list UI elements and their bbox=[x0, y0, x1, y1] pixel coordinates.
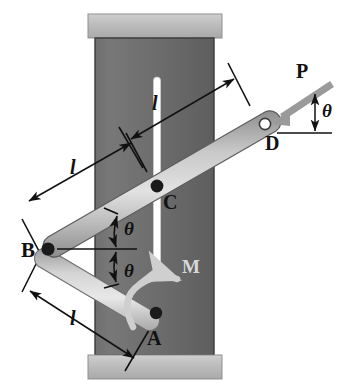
dim-low-ext-b bbox=[22, 262, 37, 292]
moment-label: M bbox=[182, 256, 200, 277]
mechanism-diagram: l l l bbox=[0, 0, 348, 386]
label-b: B bbox=[21, 238, 35, 262]
column-top-cap bbox=[88, 14, 222, 38]
label-a: A bbox=[147, 327, 162, 349]
label-c: C bbox=[163, 191, 177, 213]
dim-up-ext-d bbox=[228, 63, 250, 106]
mechanism-figure: l l l bbox=[0, 0, 348, 386]
dimension-middle-label: l bbox=[70, 156, 76, 178]
column-bottom-cap bbox=[88, 355, 222, 379]
force-p: P θ bbox=[272, 60, 332, 133]
angle-upper-label: θ bbox=[124, 218, 134, 239]
label-d: D bbox=[265, 132, 279, 154]
dimension-upper-label: l bbox=[152, 92, 158, 114]
pin-c bbox=[151, 180, 164, 193]
pin-a bbox=[150, 307, 162, 319]
force-label: P bbox=[296, 60, 308, 82]
pin-d bbox=[259, 118, 270, 129]
angle-lower-label: θ bbox=[124, 260, 134, 281]
pin-b bbox=[41, 242, 54, 255]
force-angle-label: θ bbox=[322, 100, 332, 121]
dimension-lower-label: l bbox=[70, 307, 76, 329]
